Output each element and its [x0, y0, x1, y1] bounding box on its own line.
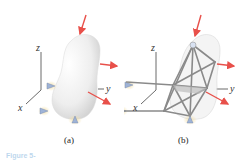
axis-label-y-a: y — [106, 84, 110, 94]
panel-a-drawing — [0, 0, 124, 160]
statics-figure: z x y (a) z x y (b) Figure 5- — [0, 0, 247, 160]
axis-label-z-a: z — [36, 43, 40, 53]
panel-a-caption: (a) — [64, 136, 74, 145]
axis-label-z-b: z — [151, 43, 155, 53]
rigid-body — [52, 35, 100, 120]
axis-label-x-b: x — [133, 103, 137, 113]
axis-label-x-a: x — [18, 103, 22, 113]
figure-caption-partial: Figure 5- — [6, 152, 36, 159]
axis-label-y-b: y — [230, 84, 234, 94]
panel-b-caption: (b) — [178, 136, 189, 145]
